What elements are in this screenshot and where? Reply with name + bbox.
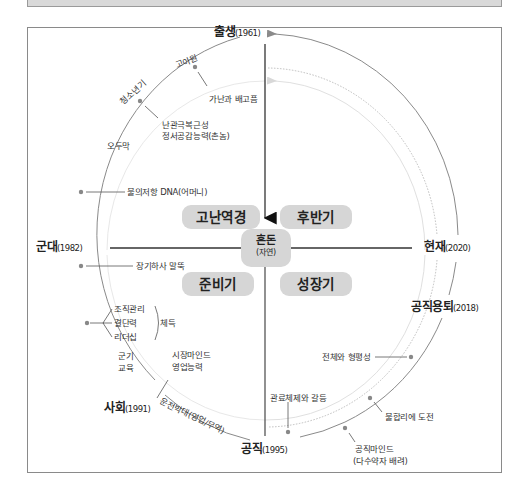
annotation-resilience-1: 난관극복근성 — [162, 120, 208, 131]
center-subtitle: (자연) — [241, 247, 291, 259]
milestone-retirement: 공직용퇴(2018) — [411, 302, 478, 314]
annotation-market-2: 영업능력 — [172, 362, 203, 373]
milestone-present: 현재(2020) — [424, 242, 470, 254]
center-chaos-box: 혼돈 (자연) — [241, 229, 291, 267]
milestone-birth: 출생(1961) — [214, 27, 260, 39]
milestone-military: 군대(1982) — [36, 242, 82, 254]
center-title: 혼돈 — [241, 234, 291, 247]
annotation-challenge: 불합리에 도전 — [385, 412, 434, 423]
milestone-society: 사회(1991) — [104, 403, 150, 415]
annotation-whole-fairness: 전체와 형평성 — [322, 352, 371, 363]
phase-growth: 성장기 — [280, 272, 352, 296]
milestone-public-office: 공직(1995) — [241, 444, 287, 456]
annotation-bureaucracy: 관료체제와 갈등 — [270, 393, 326, 404]
annotation-public-mind-1: 공직마인드 — [355, 444, 394, 455]
annotation-officer: 장기하사 말뚝 — [136, 261, 185, 272]
phase-preparation: 준비기 — [182, 272, 254, 296]
label-discipline-2: 교육 — [118, 363, 133, 374]
annotation-market-1: 시장마인드 — [172, 350, 211, 361]
phase-late-stage: 후반기 — [280, 205, 352, 229]
label-odumak: 오두막 — [107, 141, 130, 152]
annotation-skills-2: 결단력 — [114, 318, 137, 329]
annotation-public-mind-2: (다수약자 배려) — [353, 456, 408, 467]
annotation-skills-3: 리더십 — [114, 332, 137, 343]
annotation-skills-group: 체득 — [160, 318, 175, 329]
annotation-poverty: 가난과 배고픔 — [209, 94, 258, 105]
annotation-dna: 불의저항 DNA(어머니) — [127, 187, 207, 198]
label-discipline-1: 군기 — [118, 351, 133, 362]
phase-hardship: 고난역경 — [182, 205, 260, 229]
annotation-skills-1: 조직관리 — [114, 304, 145, 315]
annotation-resilience-2: 정서공감능력(촌놈) — [162, 131, 230, 142]
